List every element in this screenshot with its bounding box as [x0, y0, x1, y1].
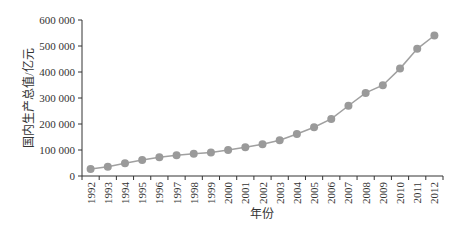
gdp-line-chart: 0100 000200 000300 000400 000500 000600 …	[0, 0, 466, 236]
data-point	[276, 136, 284, 144]
data-point	[293, 130, 301, 138]
x-tick-label: 1999	[205, 182, 217, 205]
x-tick-label: 1997	[171, 182, 183, 205]
x-tick-label: 1998	[188, 182, 200, 205]
y-axis-label: 国内生产总值/亿元	[21, 48, 36, 147]
data-point	[224, 146, 232, 154]
x-tick-label: 1994	[119, 182, 131, 205]
data-point	[190, 150, 198, 158]
y-tick-label: 400 000	[39, 66, 75, 78]
x-tick-label: 2002	[257, 182, 269, 204]
x-tick-label: 2000	[222, 182, 234, 205]
x-tick-label: 1995	[136, 182, 148, 205]
data-point	[87, 165, 95, 173]
x-tick-label: 2006	[325, 182, 337, 205]
data-point	[310, 123, 318, 131]
data-point	[173, 151, 181, 159]
x-tick-label: 2010	[394, 182, 406, 205]
data-point	[413, 45, 421, 53]
y-tick-label: 300 000	[39, 92, 75, 104]
data-point	[259, 140, 267, 148]
data-point	[362, 89, 370, 97]
x-tick-label: 2011	[411, 182, 423, 204]
x-tick-label: 2003	[274, 182, 286, 205]
data-point	[121, 159, 129, 167]
data-point	[241, 143, 249, 151]
x-tick-label: 1992	[85, 182, 97, 204]
data-point	[344, 102, 352, 110]
plot-area	[87, 32, 439, 173]
x-tick-label: 2009	[377, 182, 389, 205]
x-tick-label: 2007	[342, 182, 354, 205]
y-tick-label: 100 000	[39, 144, 75, 156]
y-tick-label: 600 000	[39, 14, 75, 26]
series-line	[91, 36, 435, 169]
data-point	[138, 156, 146, 164]
chart-canvas: 0100 000200 000300 000400 000500 000600 …	[0, 0, 466, 236]
y-tick-label: 200 000	[39, 118, 75, 130]
data-point	[379, 81, 387, 89]
y-tick-label: 500 000	[39, 40, 75, 52]
x-tick-label: 2008	[360, 182, 372, 205]
x-tick-label: 2005	[308, 182, 320, 205]
x-tick-label: 2012	[428, 182, 440, 204]
data-point	[396, 65, 404, 73]
y-axis: 0100 000200 000300 000400 000500 000600 …	[39, 14, 82, 182]
data-point	[104, 163, 112, 171]
data-point	[207, 148, 215, 156]
x-tick-label: 2001	[239, 182, 251, 204]
y-tick-label: 0	[70, 170, 76, 182]
x-axis-label: 年份	[250, 207, 274, 221]
data-point	[327, 115, 335, 123]
data-point	[155, 153, 163, 161]
x-tick-label: 1996	[153, 182, 165, 205]
data-point	[430, 32, 438, 40]
x-tick-label: 1993	[102, 182, 114, 205]
x-axis: 1992199319941995199619971998199920002001…	[82, 176, 443, 204]
x-tick-label: 2004	[291, 182, 303, 205]
